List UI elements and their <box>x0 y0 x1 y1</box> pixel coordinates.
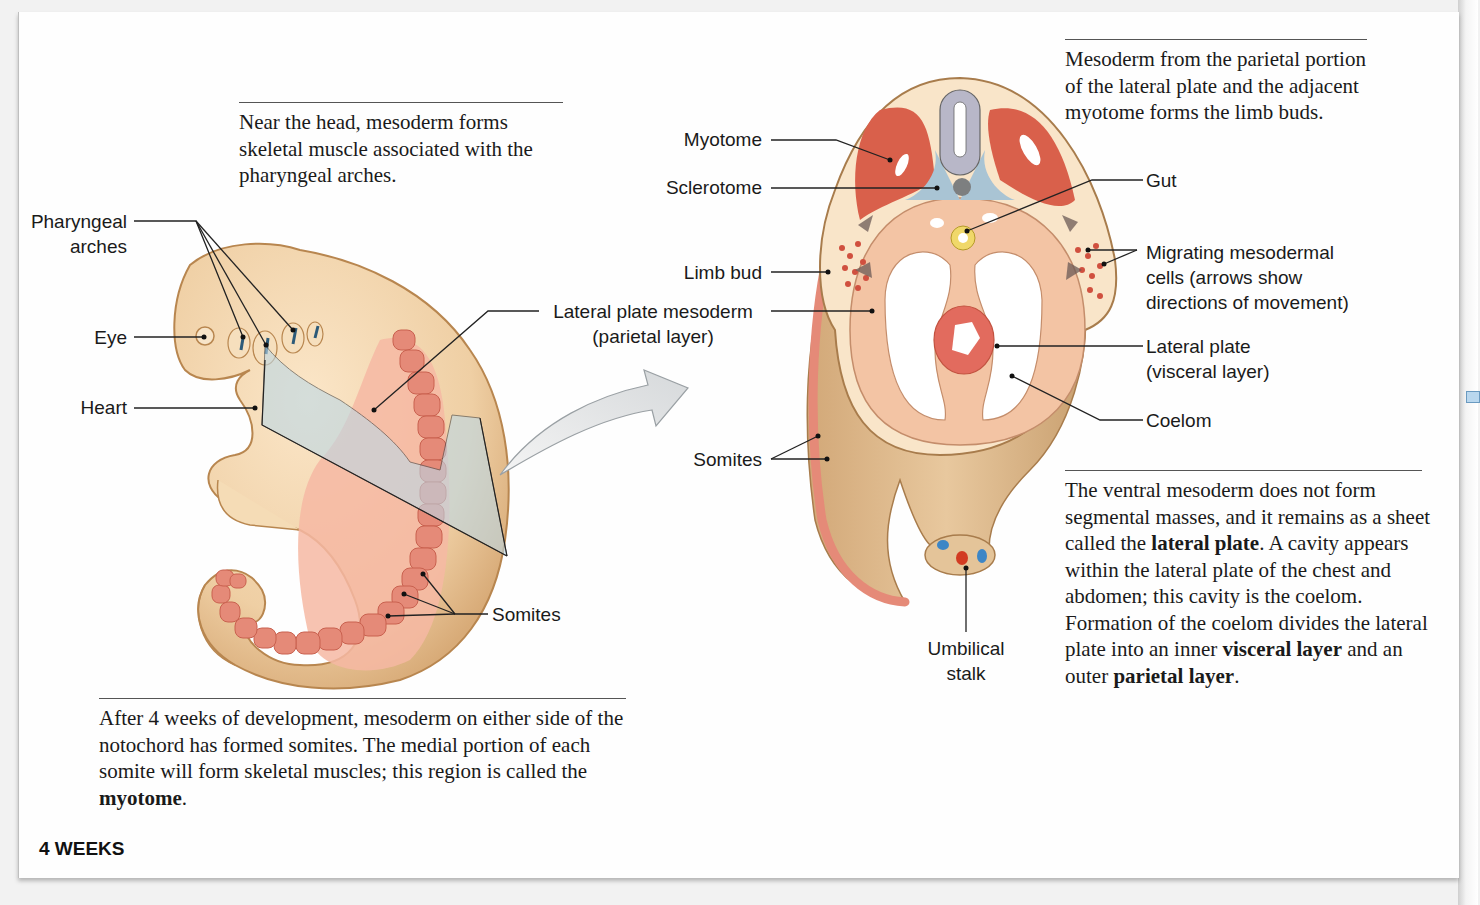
label-pharyngeal-arches: Pharyngealarches <box>0 209 127 259</box>
term-visceral-layer: visceral layer <box>1222 637 1342 661</box>
caption-somites: After 4 weeks of development, mesoderm o… <box>99 705 639 811</box>
caption-rule-head <box>239 102 563 103</box>
caption-head: Near the head, mesoderm forms skeletal m… <box>239 109 574 189</box>
caption-rule-ventral <box>1065 470 1422 471</box>
stage-label: 4 WEEKS <box>39 838 125 860</box>
label-limb-bud: Limb bud <box>560 260 762 285</box>
label-somites-left: Somites <box>492 602 561 627</box>
caption-ventral: The ventral mesoderm does not form segme… <box>1065 477 1433 689</box>
label-coelom: Coelom <box>1146 408 1211 433</box>
label-gut: Gut <box>1146 168 1177 193</box>
label-somites-right: Somites <box>560 447 762 472</box>
label-heart: Heart <box>0 395 127 420</box>
caption-rule-limb <box>1065 39 1367 40</box>
label-migrating-cells: Migrating mesodermalcells (arrows showdi… <box>1146 240 1349 315</box>
label-sclerotome: Sclerotome <box>560 175 762 200</box>
label-lateral-plate-visceral: Lateral plate(visceral layer) <box>1146 334 1270 384</box>
term-parietal-layer: parietal layer <box>1113 664 1234 688</box>
caption-limb: Mesoderm from the parietal portion of th… <box>1065 46 1375 126</box>
term-lateral-plate: lateral plate <box>1151 531 1259 555</box>
label-myotome: Myotome <box>560 127 762 152</box>
term-myotome: myotome <box>99 786 182 810</box>
embryo-4-weeks <box>174 244 508 689</box>
label-lateral-plate-mesoderm: Lateral plate mesoderm(parietal layer) <box>540 299 766 349</box>
label-eye: Eye <box>0 325 127 350</box>
caption-rule-somites <box>99 698 626 699</box>
label-umbilical-stalk: Umbilicalstalk <box>906 636 1026 686</box>
